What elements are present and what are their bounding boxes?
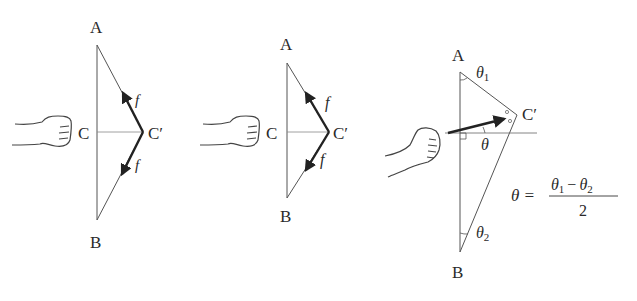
right-angle-mark (460, 133, 466, 139)
label-a: A (90, 18, 103, 37)
label-a: A (452, 46, 465, 65)
force-arrow (448, 119, 504, 133)
force-arrow-down (122, 132, 143, 174)
label-f-bottom: f (320, 151, 327, 169)
panel-1: A B C C′ f f (12, 18, 163, 252)
label-theta1: θ1 (476, 64, 489, 83)
angle-theta1-arc (460, 78, 467, 80)
formula-lhs: θ = (511, 186, 535, 205)
fist-icon (12, 116, 71, 146)
label-f-top: f (135, 92, 141, 108)
fist-icon (385, 128, 440, 177)
label-c-prime: C′ (148, 124, 163, 143)
equal-angle-mark (508, 119, 511, 122)
label-f-top: f (325, 94, 332, 112)
formula-denominator: 2 (579, 202, 587, 219)
panel-2: A B C C′ f f (200, 35, 348, 226)
label-c-prime: C′ (333, 124, 348, 143)
label-theta: θ (481, 136, 489, 153)
panel-3: A B C′ θ1 θ2 θ θ = θ1−θ2 2 (385, 46, 618, 282)
label-c: C (266, 124, 277, 143)
label-a: A (280, 35, 293, 54)
label-c-prime: C′ (522, 105, 537, 124)
formula: θ = θ1−θ2 2 (511, 176, 618, 219)
equal-angle-mark (505, 110, 508, 113)
angle-theta2-arc (460, 233, 468, 234)
label-b: B (452, 263, 463, 282)
label-f-bottom: f (135, 157, 141, 173)
label-theta2: θ2 (476, 224, 489, 243)
fist-icon (200, 116, 259, 146)
label-b: B (280, 207, 291, 226)
label-c: C (78, 124, 89, 143)
force-arrow-down (306, 132, 329, 170)
force-arrow-up (123, 93, 143, 132)
angle-theta-arc (483, 127, 485, 133)
formula-numerator: θ1−θ2 (551, 176, 593, 195)
label-b: B (90, 233, 101, 252)
string-force-diagram: A B C C′ f f A B C C′ f f (0, 0, 637, 301)
